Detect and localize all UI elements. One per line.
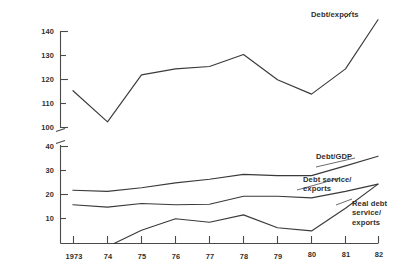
y-axis-label-30: 30	[26, 166, 54, 175]
x-axis-label-81: 81	[332, 250, 360, 259]
x-axis-label-79: 79	[264, 252, 292, 261]
y-axis-label-40: 40	[26, 142, 54, 151]
x-axis-label-80: 80	[298, 250, 326, 259]
leader-line-real-debt-service	[336, 199, 352, 205]
x-axis-label-82: 82	[365, 250, 393, 259]
y-axis-label-110: 110	[26, 99, 54, 108]
series-label-debt-service-exports-line1: Debt service/	[303, 175, 352, 184]
debt-indicators-chart: 140 130 120 110 100 40 30 20 10 1973 74 …	[0, 0, 410, 278]
series-label-real-debt-service-exports: Real debt service/ exports	[352, 199, 387, 227]
series-label-real-debt-service-line3: exports	[352, 218, 380, 227]
y-axis-label-20: 20	[26, 190, 54, 199]
series-label-debt-exports: Debt/exports	[311, 10, 359, 19]
series-label-real-debt-service-line1: Real debt	[352, 199, 387, 208]
y-axis-label-140: 140	[26, 27, 54, 36]
x-axis-label-76: 76	[162, 252, 190, 261]
y-axis-label-100: 100	[26, 123, 54, 132]
x-axis-label-1973: 1973	[59, 252, 89, 261]
series-label-real-debt-service-line2: service/	[352, 208, 381, 217]
series-label-debt-service-exports-line2: exports	[303, 184, 331, 193]
x-axis-label-78: 78	[230, 252, 258, 261]
series-line-debt-exports	[73, 20, 378, 122]
y-axis-label-120: 120	[26, 75, 54, 84]
series-label-debt-gdp: Debt/GDP	[316, 152, 352, 161]
y-axis-break-mark-upper	[56, 129, 65, 132]
y-axis-label-130: 130	[26, 51, 54, 60]
y-axis-label-10: 10	[26, 214, 54, 223]
series-label-debt-service-exports: Debt service/ exports	[303, 175, 352, 194]
chart-plot-area	[0, 0, 410, 278]
x-axis-label-77: 77	[196, 252, 224, 261]
x-axis-label-75: 75	[128, 252, 156, 261]
y-axis-break-mark-lower	[56, 141, 65, 144]
x-axis-label-74: 74	[94, 252, 122, 261]
